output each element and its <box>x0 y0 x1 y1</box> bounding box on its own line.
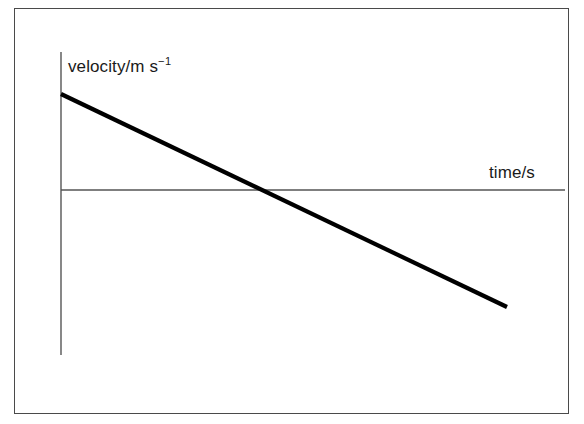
x-axis-label: time/s <box>489 164 535 181</box>
y-axis-label-exponent: −1 <box>158 55 172 67</box>
y-axis-label: velocity/m s−1 <box>68 56 172 75</box>
figure-container: velocity/m s−1 time/s <box>0 0 584 424</box>
velocity-data-line <box>61 94 507 307</box>
y-axis-label-text: velocity/m s <box>68 57 158 76</box>
